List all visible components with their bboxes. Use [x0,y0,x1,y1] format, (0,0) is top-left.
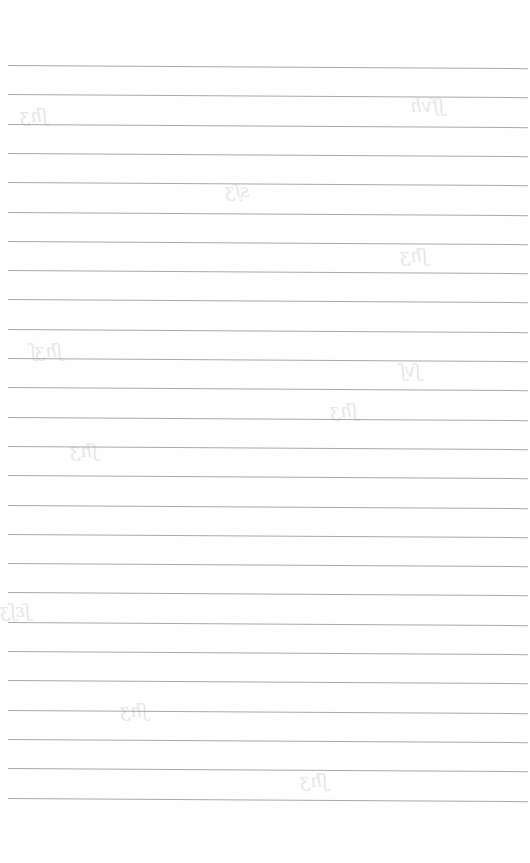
bleed-through-mark: ʃhʒ [400,245,427,266]
ruled-line [8,182,528,186]
bleed-through-mark: ʃɛʃʒ [0,600,30,621]
ruled-line [8,153,528,157]
ruled-line [8,563,528,567]
ruled-line [8,387,528,391]
ruled-line [8,592,528,596]
ruled-line [8,768,528,772]
ruled-line [8,475,528,479]
bleed-through-mark: ʃhʒ [70,440,97,461]
ruled-line [8,739,528,743]
ruled-line [8,299,528,303]
ruled-line [8,241,528,245]
bleed-through-mark: ʃhʒ [20,105,47,126]
ruled-line [8,680,528,684]
ruled-line [8,212,528,216]
ruled-line [8,505,528,509]
ruled-line [8,94,528,98]
bleed-through-mark: ʃvʃ [400,360,420,381]
ruled-line [8,446,528,450]
ruled-line [8,798,528,802]
ruled-line [8,710,528,714]
ruled-line [8,534,528,538]
ruled-line [8,651,528,655]
ruled-line [8,417,528,421]
ruled-line [8,65,528,69]
ruled-line [8,124,528,128]
ruled-line [8,358,528,362]
bleed-through-mark: ʃhʒ [330,400,357,421]
bleed-through-mark: ʃhʒ [300,770,327,791]
lined-paper-page: ʃhʒʃfvhsᶘʒʃhʒʃhʒʃʃvʃʃhʒʃhʒʃɛʃʒʃhʒʃhʒ [0,0,530,863]
ruled-line [8,622,528,626]
ruled-line [8,329,528,333]
ruled-line [8,270,528,274]
bleed-through-mark: ʃfvh [410,95,443,116]
